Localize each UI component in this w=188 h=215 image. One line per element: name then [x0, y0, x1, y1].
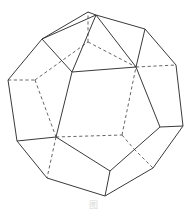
hidden-edge-ST [122, 135, 134, 149]
hidden-edge-NF [47, 137, 56, 178]
hidden-edge-RM [88, 42, 136, 67]
edge-NO [56, 137, 110, 171]
figure-caption: 图 [70, 198, 118, 211]
hidden-edge-TH [134, 149, 153, 168]
hidden-edge-MJ [136, 65, 176, 67]
polyhedron-diagram [0, 0, 188, 215]
edge-AB [88, 12, 96, 15]
edge-IJ [176, 65, 183, 126]
edge-BK [96, 15, 145, 29]
edge-EF [17, 141, 47, 178]
edge-CD [8, 39, 42, 80]
edge-KM [136, 29, 145, 67]
edge-PI [160, 126, 183, 127]
edge-MP [136, 67, 160, 127]
hidden-edges [8, 12, 176, 178]
hidden-edge-QN [35, 80, 56, 137]
edge-LM [72, 67, 136, 72]
edge-DE [8, 80, 17, 141]
edge-JK [145, 29, 176, 65]
edge-FG [47, 178, 105, 196]
edge-LN [56, 72, 72, 137]
visible-edges [8, 12, 183, 196]
edge-OP [110, 127, 160, 171]
hidden-edge-NS [56, 135, 122, 137]
hidden-edge-SM [122, 67, 136, 135]
edge-BM [96, 15, 136, 67]
edge-AC [42, 12, 88, 39]
edge-CL [42, 39, 72, 72]
edge-OG [105, 171, 110, 196]
edge-HI [153, 126, 183, 168]
edge-GH [105, 168, 153, 196]
edge-NE [17, 137, 56, 141]
